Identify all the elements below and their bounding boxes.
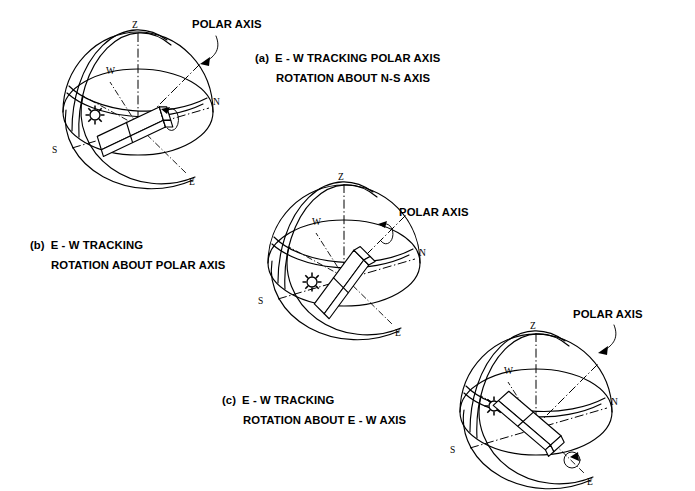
polar-axis-label-b: POLAR AXIS bbox=[399, 206, 469, 218]
figure-root: Z N S E W POLAR AXIS (a)E - W TRACKING P… bbox=[0, 0, 695, 491]
cardinal-south-a: S bbox=[52, 145, 57, 155]
sun-icon-a bbox=[86, 106, 105, 125]
caption-c-line2: ROTATION ABOUT E - W AXIS bbox=[243, 414, 407, 426]
panel-marker-a: (a) bbox=[255, 52, 269, 64]
caption-c-text1: E - W TRACKING bbox=[242, 394, 335, 406]
cardinal-zenith-b: Z bbox=[338, 172, 344, 182]
polar-axis-label-c: POLAR AXIS bbox=[573, 308, 643, 320]
cardinal-zenith-c: Z bbox=[530, 321, 536, 331]
cardinal-west-a: W bbox=[106, 66, 115, 76]
panel-marker-c: (c) bbox=[222, 394, 236, 406]
cardinal-west-c: W bbox=[504, 366, 513, 376]
cardinal-east-a: E bbox=[189, 177, 195, 187]
cardinal-zenith-a: Z bbox=[132, 20, 138, 30]
polar-axis-label-a: POLAR AXIS bbox=[192, 18, 262, 30]
cardinal-east-b: E bbox=[395, 328, 401, 338]
cardinal-north-b: N bbox=[419, 248, 426, 258]
caption-b-line2: ROTATION ABOUT POLAR AXIS bbox=[51, 259, 226, 271]
caption-a-text1: E - W TRACKING POLAR AXIS bbox=[275, 52, 441, 64]
caption-b-text1: E - W TRACKING bbox=[51, 239, 144, 251]
cardinal-east-c: E bbox=[587, 477, 593, 487]
sun-icon-b bbox=[303, 273, 322, 292]
cardinal-west-b: W bbox=[312, 217, 321, 227]
cardinal-south-b: S bbox=[258, 296, 263, 306]
solar-tracking-figure: Z N S E W POLAR AXIS (a)E - W TRACKING P… bbox=[0, 0, 695, 491]
cardinal-north-a: N bbox=[213, 97, 220, 107]
cardinal-south-c: S bbox=[450, 445, 455, 455]
caption-a-line2: ROTATION ABOUT N-S AXIS bbox=[276, 72, 431, 84]
panel-marker-b: (b) bbox=[30, 239, 45, 251]
caption-a-line1: (a)E - W TRACKING POLAR AXIS bbox=[255, 52, 441, 64]
cardinal-north-c: N bbox=[611, 397, 618, 407]
